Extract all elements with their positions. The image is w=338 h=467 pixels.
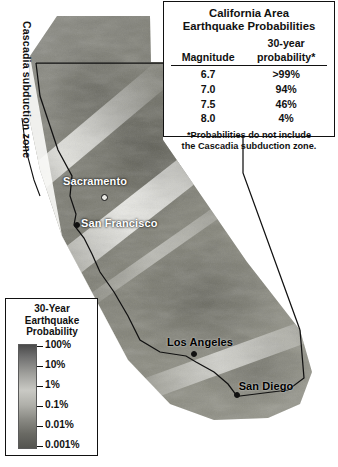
table-row: 8.0 4% — [171, 111, 327, 126]
table-header-row: Magnitude probability* — [171, 51, 327, 66]
footnote-line2: the Cascadia subduction zone. — [171, 141, 327, 152]
table-title-line2: Earthquake Probabilities — [171, 20, 327, 33]
legend-tick-label: 10% — [45, 359, 65, 370]
legend-title-line1: 30-Year — [11, 303, 93, 315]
probability-legend-panel: 30-Year Earthquake Probability 100% 10% … — [5, 298, 98, 456]
cell-magnitude: 7.5 — [171, 96, 245, 111]
table-row: 7.5 46% — [171, 96, 327, 111]
legend-tick-label: 0.1% — [45, 399, 68, 410]
probability-table: 30-year Magnitude probability* 6.7 >99% … — [171, 37, 327, 125]
san-diego-marker-icon — [234, 392, 240, 398]
earthquake-probability-map-figure: Cascadia subduction zone Sacramento San … — [0, 0, 338, 467]
legend-tick-label: 100% — [45, 339, 71, 350]
legend-scale-body: 100% 10% 1% 0.1% 0.01% 0.001% — [11, 342, 93, 454]
san-diego-label: San Diego — [239, 381, 294, 393]
sacramento-marker-icon — [101, 194, 108, 201]
legend-tick-label: 0.01% — [45, 419, 74, 430]
legend-tick-mark — [37, 446, 43, 447]
legend-title-line2: Earthquake — [11, 315, 93, 327]
cell-probability: 94% — [245, 81, 327, 96]
table-row: 7.0 94% — [171, 81, 327, 96]
legend-tick-label: 1% — [45, 379, 60, 390]
legend-tick-label: 0.001% — [45, 439, 80, 450]
table-title: California Area Earthquake Probabilities — [171, 7, 327, 33]
header-magnitude: Magnitude — [171, 51, 245, 66]
los-angeles-marker-icon — [191, 351, 197, 357]
cascadia-subduction-zone-label: Cascadia subduction zone — [21, 21, 33, 131]
cell-probability: 46% — [245, 96, 327, 111]
legend-gradient-bar — [18, 344, 37, 449]
table-row: 6.7 >99% — [171, 66, 327, 81]
legend-tick-mark — [37, 366, 43, 367]
los-angeles-label: Los Angeles — [167, 337, 233, 349]
legend-title: 30-Year Earthquake Probability — [11, 303, 93, 338]
header-spacer — [171, 37, 245, 50]
table-footnote: *Probabilities do not include the Cascad… — [171, 130, 327, 152]
cell-magnitude: 8.0 — [171, 111, 245, 126]
san-francisco-marker-icon — [74, 222, 80, 228]
legend-tick-mark — [37, 426, 43, 427]
cell-magnitude: 6.7 — [171, 66, 245, 81]
sacramento-label: Sacramento — [63, 176, 127, 188]
header-30-year: 30-year — [245, 37, 327, 50]
cell-probability: 4% — [245, 111, 327, 126]
earthquake-probability-table-panel: California Area Earthquake Probabilities… — [163, 1, 335, 137]
footnote-line1: *Probabilities do not include — [171, 130, 327, 141]
table-header-top-row: 30-year — [171, 37, 327, 50]
table-title-line1: California Area — [171, 7, 327, 20]
san-francisco-label: San Francisco — [81, 218, 147, 230]
legend-tick-mark — [37, 386, 43, 387]
legend-title-line3: Probability — [11, 326, 93, 338]
header-probability: probability* — [245, 51, 327, 66]
cell-magnitude: 7.0 — [171, 81, 245, 96]
cell-probability: >99% — [245, 66, 327, 81]
legend-tick-mark — [37, 406, 43, 407]
legend-tick-mark — [37, 346, 43, 347]
